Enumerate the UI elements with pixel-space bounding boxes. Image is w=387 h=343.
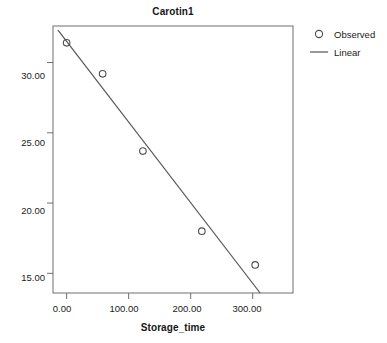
- regression-line-linear: [58, 30, 260, 293]
- y-tick-label-15: 15.00: [3, 272, 45, 283]
- y-tick-label-30: 30.00: [3, 70, 45, 81]
- open-circle-icon: [308, 27, 330, 41]
- x-tick-label-0: 0.00: [37, 303, 87, 314]
- x-tick-label-100: 100.00: [99, 303, 149, 314]
- line-icon: [308, 45, 330, 59]
- legend-label-observed: Observed: [330, 29, 375, 40]
- y-axis-ticks: [47, 63, 53, 274]
- data-point-3: [140, 148, 147, 155]
- data-point-4: [199, 228, 206, 235]
- legend-item-observed[interactable]: Observed: [308, 26, 386, 42]
- legend-item-linear[interactable]: Linear: [308, 44, 386, 60]
- x-tick-label-200: 200.00: [162, 303, 212, 314]
- chart-figure: Carotin1 30.00 25.00 20.00 15.00 0.00 10…: [0, 0, 387, 343]
- observed-points-group: [63, 40, 258, 269]
- data-point-2: [99, 70, 106, 77]
- y-tick-label-20: 20.00: [3, 205, 45, 216]
- x-tick-label-300: 300.00: [222, 303, 272, 314]
- chart-legend: Observed Linear: [308, 26, 386, 62]
- data-point-5: [252, 262, 259, 269]
- legend-label-linear: Linear: [330, 47, 360, 58]
- y-tick-label-25: 25.00: [3, 137, 45, 148]
- x-axis-title: Storage_time: [53, 322, 293, 333]
- x-axis-ticks: [67, 293, 253, 299]
- plot-frame: [53, 26, 293, 293]
